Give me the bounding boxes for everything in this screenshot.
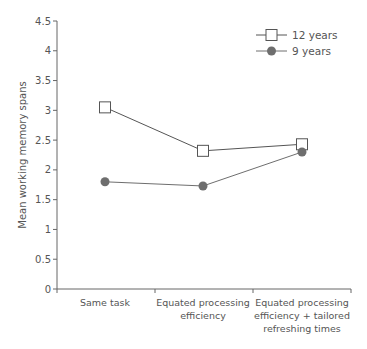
series-12-years xyxy=(100,102,308,156)
y-tick-label: 2 xyxy=(45,164,51,175)
x-category-label: Same task xyxy=(80,297,130,308)
series-line xyxy=(105,152,302,186)
circle-marker xyxy=(101,177,110,186)
chart-svg: 00.511.522.533.544.5 Same taskEquated pr… xyxy=(0,0,367,349)
legend: 12 years9 years xyxy=(256,29,338,57)
x-category-label: Equated processingefficiency xyxy=(156,297,250,321)
y-axis-title: Mean working memory spans xyxy=(17,81,28,228)
circle-marker xyxy=(298,148,307,157)
x-axis: Same taskEquated processingefficiencyEqu… xyxy=(57,289,351,334)
y-tick-label: 4 xyxy=(45,45,51,56)
line-chart: 00.511.522.533.544.5 Same taskEquated pr… xyxy=(0,0,367,349)
y-tick-label: 0.5 xyxy=(35,254,51,265)
y-tick-label: 4.5 xyxy=(35,16,51,27)
legend-item: 12 years xyxy=(256,29,338,41)
series-layer xyxy=(100,102,308,191)
legend-label: 9 years xyxy=(292,45,331,57)
legend-label: 12 years xyxy=(292,29,338,41)
legend-item: 9 years xyxy=(256,45,331,57)
square-marker xyxy=(100,102,111,113)
y-tick-label: 1 xyxy=(45,224,51,235)
y-tick-label: 3.5 xyxy=(35,75,51,86)
legend-square-icon xyxy=(266,30,277,41)
square-marker xyxy=(198,145,209,156)
y-tick-label: 3 xyxy=(45,105,51,116)
legend-circle-icon xyxy=(267,47,276,56)
y-axis: 00.511.522.533.544.5 xyxy=(35,16,57,295)
y-tick-label: 0 xyxy=(45,284,51,295)
series-line xyxy=(105,107,302,150)
y-tick-label: 2.5 xyxy=(35,135,51,146)
circle-marker xyxy=(199,181,208,190)
y-tick-label: 1.5 xyxy=(35,194,51,205)
x-category-label: Equated processingefficiency + tailoredr… xyxy=(254,297,350,334)
